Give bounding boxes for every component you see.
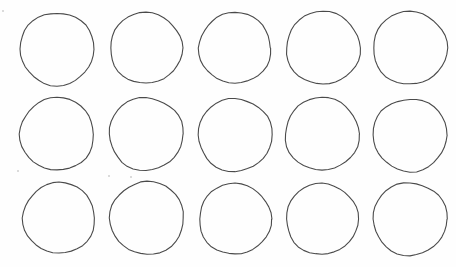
drawn-circle-r2-c4: [285, 97, 359, 170]
drawn-circle-r1-c3: [198, 12, 270, 83]
drawn-circle-r3-c4: [287, 183, 359, 254]
circle-grid: [0, 0, 456, 267]
drawn-circle-r1-c1: [20, 14, 94, 87]
paper-speck: [130, 176, 132, 178]
circle-worksheet: [0, 0, 456, 267]
drawn-circle-r2-c1: [19, 97, 93, 170]
paper-speck: [108, 175, 110, 177]
drawn-circle-r3-c2: [109, 181, 183, 254]
drawn-circle-r2-c2: [109, 98, 183, 171]
paper-speck: [2, 10, 4, 12]
drawn-circle-r2-c3: [198, 98, 272, 171]
drawn-circle-r1-c4: [287, 11, 361, 84]
drawn-circle-r3-c3: [200, 183, 272, 254]
drawn-circle-r3-c5: [373, 183, 447, 256]
drawn-circle-r2-c5: [373, 99, 447, 172]
drawn-circle-r1-c5: [374, 11, 448, 84]
drawn-circle-r1-c2: [111, 12, 183, 83]
paper-speck: [17, 170, 19, 172]
drawn-circle-r3-c1: [22, 182, 94, 253]
